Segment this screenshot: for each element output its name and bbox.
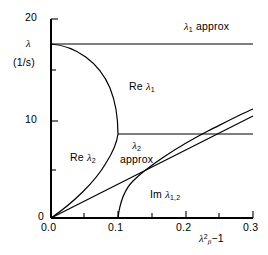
x-tick-label-0.3: 0.3: [243, 222, 258, 233]
figure-container: 20 10 0 λ (1/s) 0.0 0.1 0.2 0.3 λ2β−1 λ1…: [0, 0, 268, 255]
annotation-lambda2-subscript: 2: [137, 145, 141, 152]
annotation-lambda1-subscript: 1: [189, 26, 193, 33]
annotation-re-lambda1: Re λ1: [129, 81, 155, 95]
curve-re-lambda1: [51, 44, 118, 134]
curve-re-lambda2: [51, 134, 118, 218]
y-tick-label-10: 10: [25, 114, 37, 125]
y-axis-major-ticks: [51, 19, 58, 218]
y-axis-minor-ticks: [51, 70, 56, 170]
annotation-re-lambda2: Re λ2: [70, 152, 96, 166]
annotation-im-lambda-subscript: 1,2: [170, 194, 180, 201]
annotation-re-lambda2-re: Re: [70, 151, 84, 163]
y-axis-title: λ: [26, 38, 31, 49]
annotation-im-lambda-im: Im: [150, 188, 162, 200]
y-tick-label-20: 20: [25, 12, 37, 23]
annotation-re-lambda1-re: Re: [129, 80, 143, 92]
x-tick-label-0.1: 0.1: [108, 222, 123, 233]
x-axis-minor-ticks: [84, 213, 219, 218]
annotation-lambda2-approx: λ2 approx: [120, 140, 153, 165]
annotation-lambda1-approx: λ1 approx: [184, 21, 229, 35]
x-tick-label-0.0: 0.0: [41, 222, 56, 233]
x-tick-label-0.2: 0.2: [176, 222, 191, 233]
annotation-im-lambda12: Im λ1,2: [150, 189, 180, 203]
annotation-re-lambda1-subscript: 1: [151, 86, 155, 93]
y-axis-units: (1/s): [13, 57, 35, 68]
annotation-lambda2-line2: approx: [120, 154, 153, 165]
annotation-lambda2-line1: λ2: [120, 140, 153, 154]
annotation-lambda1-word: approx: [196, 20, 229, 32]
x-axis-title: λ2β−1: [199, 231, 224, 248]
annotation-re-lambda2-subscript: 2: [92, 157, 96, 164]
x-axis-title-tail: −1: [212, 232, 224, 244]
